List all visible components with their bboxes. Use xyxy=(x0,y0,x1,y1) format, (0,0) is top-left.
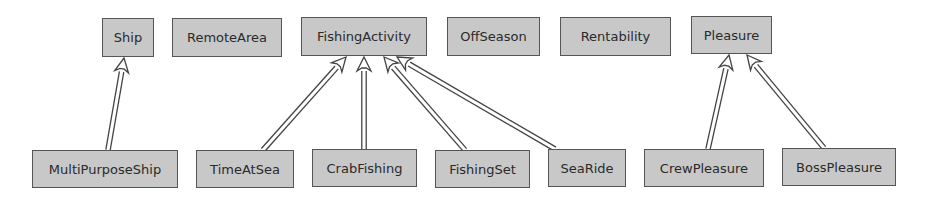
class-node-label: FishingSet xyxy=(449,162,516,177)
class-node-fishing-set: FishingSet xyxy=(435,150,530,188)
class-node-rentability: Rentability xyxy=(560,17,671,56)
hollow-arrowhead-icon xyxy=(115,58,129,73)
class-node-label: FishingActivity xyxy=(317,29,411,44)
class-node-label: CrewPleasure xyxy=(660,161,748,176)
inheritance-arrow xyxy=(747,55,826,149)
class-node-fishing-activity: FishingActivity xyxy=(301,17,427,56)
class-node-remote-area: RemoteArea xyxy=(172,18,282,57)
inheritance-arrow xyxy=(706,55,733,149)
inheritance-arrow xyxy=(261,57,346,151)
hollow-arrowhead-icon xyxy=(719,55,733,70)
class-node-label: SeaRide xyxy=(560,161,613,176)
inheritance-arrow xyxy=(397,57,556,151)
class-node-label: BossPleasure xyxy=(796,160,882,175)
hollow-arrowhead-icon xyxy=(397,57,413,70)
hollow-arrowhead-icon xyxy=(357,57,371,71)
class-node-off-season: OffSeason xyxy=(447,17,540,56)
class-node-label: Rentability xyxy=(581,29,651,44)
class-node-label: MultiPurposeShip xyxy=(49,162,161,177)
class-node-crew-pleasure: CrewPleasure xyxy=(644,149,764,187)
inheritance-arrow xyxy=(106,58,129,150)
class-node-pleasure: Pleasure xyxy=(691,16,772,54)
class-node-crab-fishing: CrabFishing xyxy=(312,149,417,187)
hollow-arrowhead-icon xyxy=(331,57,346,72)
class-node-label: OffSeason xyxy=(460,29,526,44)
class-node-time-at-sea: TimeAtSea xyxy=(196,150,294,188)
class-node-label: CrabFishing xyxy=(327,161,403,176)
class-node-sea-ride: SeaRide xyxy=(548,149,626,187)
class-node-label: RemoteArea xyxy=(187,30,267,45)
hollow-arrowhead-icon xyxy=(384,57,398,72)
inheritance-arrow xyxy=(357,57,371,149)
class-node-ship: Ship xyxy=(102,18,154,57)
class-node-boss-pleasure: BossPleasure xyxy=(782,148,896,186)
class-node-multi-purpose-ship: MultiPurposeShip xyxy=(32,150,178,188)
class-node-label: Pleasure xyxy=(704,28,760,43)
class-node-label: TimeAtSea xyxy=(210,162,280,177)
class-node-label: Ship xyxy=(114,30,142,45)
